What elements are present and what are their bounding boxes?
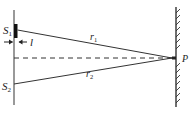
label-slit-width: l [30,36,33,48]
label-r2: r2 [86,68,93,80]
label-s1: S1 [3,24,13,38]
slit-width-arrows [4,40,27,45]
ray-r1 [18,30,173,58]
label-point-p: P [181,53,188,64]
ray-r2 [14,58,172,84]
slit-s1 [14,24,18,38]
point-p-marker [172,57,176,60]
label-r1: r1 [90,31,97,43]
double-slit-diagram: S1 l S2 r1 r2 P [0,0,192,114]
label-s2: S2 [2,80,12,94]
